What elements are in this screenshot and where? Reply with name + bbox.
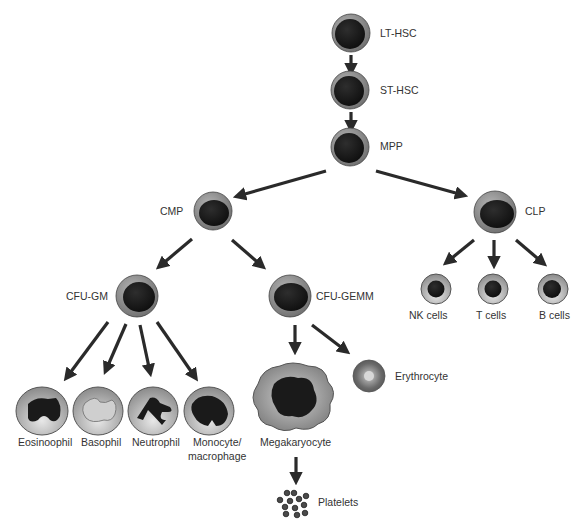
arrow-mpp-clp: [376, 171, 463, 195]
arrow-clp-nk: [447, 240, 474, 262]
label-cmp: CMP: [160, 205, 183, 217]
platelets-cluster: [277, 490, 309, 518]
label-neutrophil: Neutrophil: [132, 436, 180, 448]
hematopoiesis-diagram: LT-HSC ST-HSC MPP CMP CLP CFU-GM CFU-GEM…: [0, 0, 587, 529]
label-monocyte-line1: Monocyte/: [193, 436, 242, 448]
cell-cmp: [194, 192, 232, 230]
label-platelets: Platelets: [318, 496, 358, 508]
label-cfu-gemm: CFU-GEMM: [316, 290, 374, 302]
cell-monocyte: [184, 387, 234, 435]
arrow-cmp-cfugm: [160, 239, 192, 266]
arrow-cfugemm-erythrocyte: [312, 325, 346, 351]
cell-eosinophil: [16, 387, 68, 435]
label-monocyte-line2: macrophage: [188, 450, 247, 462]
label-cfu-gm: CFU-GM: [66, 290, 108, 302]
label-lt-hsc: LT-HSC: [380, 27, 417, 39]
label-basophil: Basophil: [81, 436, 121, 448]
cell-cfu-gm: [116, 275, 158, 317]
arrow-clp-b: [516, 240, 543, 263]
cell-basophil: [73, 387, 123, 435]
arrow-cfugm-neutrophil: [140, 325, 150, 372]
cell-st-hsc: [331, 71, 369, 109]
cell-lt-hsc: [332, 14, 370, 52]
label-nk-cells: NK cells: [409, 309, 448, 321]
arrow-cmp-cfugemm: [232, 240, 262, 266]
label-st-hsc: ST-HSC: [380, 84, 419, 96]
cell-neutrophil: [128, 387, 178, 435]
cell-mpp: [331, 128, 369, 166]
arrow-cfugm-monocyte: [157, 322, 195, 377]
cell-cfu-gemm: [269, 275, 311, 317]
label-t-cells: T cells: [476, 309, 506, 321]
cell-erythrocyte: [353, 360, 385, 392]
arrow-cfugm-basophil: [106, 324, 126, 370]
label-b-cells: B cells: [539, 309, 570, 321]
arrow-mpp-cmp: [238, 171, 326, 196]
label-clp: CLP: [525, 205, 545, 217]
label-erythrocyte: Erythrocyte: [395, 370, 448, 382]
arrow-cfugm-eosinophil: [67, 322, 108, 377]
label-mpp: MPP: [380, 140, 403, 152]
label-megakaryocyte: Megakaryocyte: [260, 436, 331, 448]
cell-clp: [474, 191, 516, 233]
cell-b: [538, 274, 568, 304]
label-eosinophil: Eosinoophil: [18, 436, 72, 448]
cell-nk: [421, 274, 451, 304]
cell-megakaryocyte: [253, 363, 334, 431]
cell-t: [478, 274, 508, 304]
